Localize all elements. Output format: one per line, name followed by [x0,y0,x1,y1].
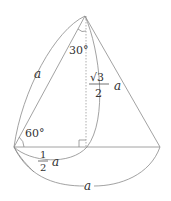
half-base-numerator: 1 [40,149,46,160]
outer-left-lower-arc [14,147,34,172]
apex-angle-arc [78,29,86,32]
right-angle-marker [79,140,86,147]
base-angle-arc [19,137,24,147]
half-base-denominator: 2 [40,162,46,173]
height-numerator: √3 [90,71,104,84]
slant-side-label: a [34,67,41,81]
apex-angle-label: 30° [69,44,89,57]
height-denominator: 2 [95,87,102,100]
base-label: a [84,179,91,193]
height-variable: a [114,79,121,93]
half-base-variable: a [52,155,59,169]
base-angle-label: 60° [25,127,45,140]
cone-diagram: 30° 60° a √3 2 a 1 2 a a [0,0,171,201]
half-base-arc [14,147,87,160]
